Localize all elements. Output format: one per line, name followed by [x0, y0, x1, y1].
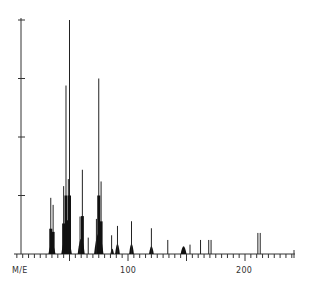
peak-cluster [110, 249, 114, 254]
peak-body [68, 196, 71, 255]
x-tick-label-100: 100 [120, 266, 136, 275]
peaks [49, 20, 260, 254]
peak-cluster [181, 246, 187, 254]
peak-body [100, 221, 103, 254]
peak-body [81, 216, 84, 254]
mass-spectrum-chart [0, 0, 313, 293]
x-tick-label-200: 200 [236, 266, 252, 275]
x-axis-label: M/E [12, 266, 28, 275]
x-ticks [17, 250, 294, 261]
axes [14, 18, 295, 254]
peak-body [52, 232, 55, 254]
